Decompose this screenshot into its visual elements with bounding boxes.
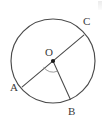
point-label-b: B [68,106,75,117]
point-label-o: O [45,47,53,58]
scan-artifact [98,1,102,10]
radius-segment-ob [53,61,70,99]
point-label-a: A [10,82,18,93]
point-label-c: C [83,16,90,27]
geometry-figure: A B C O [0,0,105,129]
center-point-dot [51,59,55,63]
